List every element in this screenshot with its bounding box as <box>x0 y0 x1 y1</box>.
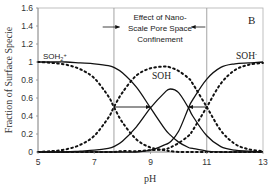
x-tick-label: 11 <box>202 157 211 167</box>
y-tick-label: 1 <box>28 57 33 67</box>
y-tick-label: 1.2 <box>21 39 33 49</box>
y-tick-label: 0 <box>28 147 33 157</box>
x-axis-ticks: 5791113 <box>36 152 268 167</box>
x-axis-title: pH <box>144 173 156 184</box>
speciation-chart: 00.20.40.60.811.21.41.6 5791113 Effect o… <box>0 0 272 189</box>
x-tick-label: 9 <box>148 157 153 167</box>
label-soh-minus: SOH- <box>236 51 257 61</box>
y-tick-label: 1.6 <box>21 3 33 13</box>
annotation-line-1: Effect of Nano- <box>133 13 187 22</box>
x-tick-label: 7 <box>92 157 97 167</box>
annotation-line-2: Scale Pore Space <box>128 24 193 33</box>
y-tick-label: 0.6 <box>21 93 33 103</box>
y-tick-label: 0.2 <box>21 129 33 139</box>
x-tick-label: 13 <box>258 157 268 167</box>
y-tick-label: 0.8 <box>21 75 33 85</box>
y-tick-label: 1.4 <box>21 21 33 31</box>
annotation-line-3: Confinement <box>137 35 183 44</box>
y-tick-label: 0.4 <box>21 111 33 121</box>
label-soh2-plus: SOH2+ <box>43 52 67 63</box>
panel-label: B <box>248 14 255 26</box>
label-soh: SOH <box>152 71 171 81</box>
x-tick-label: 5 <box>36 157 41 167</box>
y-axis-ticks: 00.20.40.60.811.21.41.6 <box>21 3 38 157</box>
y-axis-title: Fraction of Surface Specie <box>3 26 14 133</box>
